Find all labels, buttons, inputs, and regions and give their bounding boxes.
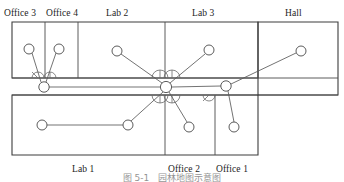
room-label-office-3: Office 3 [4, 8, 36, 19]
door-office1-arc [203, 95, 215, 101]
node-n-corr-w[interactable] [39, 82, 49, 92]
top-block-outline [12, 22, 258, 78]
floor-plan-figure: Office 3Office 4Lab 2Lab 3HallLab 1Offic… [0, 0, 344, 182]
room-label-lab-2: Lab 2 [106, 8, 128, 19]
link-n-hall-n-corr-e [231, 53, 296, 84]
node-n-office1[interactable] [229, 122, 239, 132]
node-n-lab1-w[interactable] [37, 120, 47, 130]
room-label-lab-3: Lab 3 [192, 8, 214, 19]
hall-outline [258, 22, 338, 95]
node-n-office3[interactable] [24, 44, 34, 54]
node-n-lab1-e[interactable] [123, 120, 133, 130]
link-n-hub-n-corr-e [172, 86, 221, 87]
link-n-hub-n-office2 [169, 92, 187, 122]
node-n-corr-e[interactable] [221, 81, 231, 91]
room-label-office-4: Office 4 [46, 8, 78, 19]
link-n-corr-e-n-office1 [228, 91, 234, 122]
figure-caption: 图 5-1 园林地图示意图 [0, 171, 344, 182]
node-n-lab2[interactable] [112, 46, 122, 56]
room-label-hall: Hall [285, 8, 302, 19]
link-n-hub-n-lab1-e [131, 92, 163, 121]
walls-group [12, 22, 338, 155]
node-n-lab3[interactable] [204, 45, 214, 55]
link-n-lab2-n-hub [121, 54, 162, 83]
floor-plan-canvas [0, 0, 344, 182]
node-n-office4[interactable] [54, 44, 64, 54]
node-n-hub[interactable] [160, 81, 171, 92]
node-n-office2[interactable] [184, 122, 194, 132]
link-n-lab3-n-hub [170, 54, 205, 83]
node-n-hall[interactable] [296, 46, 306, 56]
